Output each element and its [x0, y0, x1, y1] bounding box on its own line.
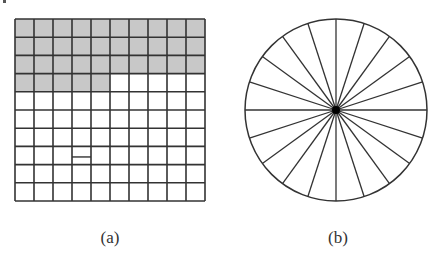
shaded-cell: [148, 37, 167, 55]
shaded-cell: [53, 37, 72, 55]
shaded-cell: [148, 19, 167, 37]
shaded-cell: [167, 19, 186, 37]
sector-spoke: [336, 110, 364, 197]
sector-spoke: [336, 110, 423, 138]
panel-b-circle: [245, 19, 427, 201]
sector-spoke: [308, 23, 336, 110]
shaded-cell: [129, 55, 148, 73]
sector-spoke: [249, 110, 336, 138]
shaded-cell: [34, 19, 53, 37]
shaded-cell: [91, 55, 110, 73]
shaded-cell: [110, 37, 129, 55]
shaded-cell: [72, 74, 91, 92]
shaded-cell: [53, 19, 72, 37]
sector-spoke: [336, 110, 389, 184]
shaded-cell: [167, 55, 186, 73]
sector-spoke: [336, 23, 364, 110]
shaded-cell: [53, 55, 72, 73]
panel-a-grid: [15, 19, 205, 201]
shaded-cell: [34, 74, 53, 92]
figure: [0, 0, 436, 259]
shaded-cell: [129, 19, 148, 37]
shaded-cell: [15, 19, 34, 37]
shaded-cell: [186, 19, 205, 37]
shaded-cell: [15, 55, 34, 73]
sector-spoke: [308, 110, 336, 197]
shaded-cell: [72, 19, 91, 37]
shaded-cell: [91, 19, 110, 37]
shaded-cell: [53, 74, 72, 92]
shaded-cell: [34, 37, 53, 55]
shaded-cell: [34, 55, 53, 73]
shaded-cell: [148, 55, 167, 73]
sector-spoke: [336, 82, 423, 110]
sector-spoke: [336, 57, 410, 110]
center-dot: [332, 106, 340, 114]
shaded-cell: [129, 37, 148, 55]
sector-spoke: [336, 110, 410, 163]
shaded-cell: [167, 37, 186, 55]
shaded-cell: [72, 55, 91, 73]
shaded-cell: [110, 55, 129, 73]
sector-spoke: [249, 82, 336, 110]
shaded-cell: [72, 37, 91, 55]
panel-a-label: (a): [80, 228, 140, 248]
sector-spoke: [336, 36, 389, 110]
sector-spoke: [262, 57, 336, 110]
shaded-cell: [91, 74, 110, 92]
sector-spoke: [283, 110, 336, 184]
shaded-cell: [186, 37, 205, 55]
shaded-cell: [15, 37, 34, 55]
panel-b-label: (b): [308, 228, 368, 248]
shaded-cell: [91, 37, 110, 55]
shaded-cell: [186, 55, 205, 73]
sector-spoke: [283, 36, 336, 110]
sector-spoke: [262, 110, 336, 163]
shaded-cell: [15, 74, 34, 92]
shaded-cell: [110, 19, 129, 37]
